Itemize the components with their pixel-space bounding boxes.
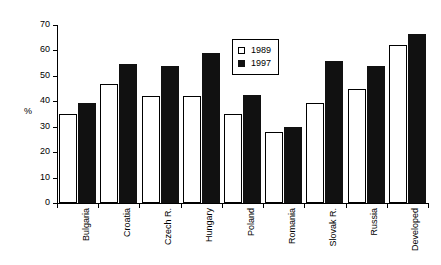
x-axis-label: Bulgaria [82, 208, 91, 241]
x-axis-label: Slovak R. [329, 208, 338, 247]
x-tick-mark [181, 204, 182, 208]
bar-1989 [389, 45, 407, 203]
y-tick-label: 50 [28, 71, 50, 80]
bar-group [387, 25, 428, 203]
y-tick-label: 40 [28, 96, 50, 105]
bar-group [139, 25, 180, 203]
x-tick-mark [98, 204, 99, 208]
bar-1989 [59, 114, 77, 203]
x-tick-mark [304, 204, 305, 208]
x-tick-mark [346, 204, 347, 208]
bar-1989 [224, 114, 242, 203]
x-tick-mark [57, 204, 58, 208]
x-axis-label: Russia [370, 208, 379, 236]
bar-1997 [202, 53, 220, 203]
legend: 1989 1997 [232, 39, 279, 75]
y-tick-label: 0 [28, 198, 50, 207]
bar-group [181, 25, 222, 203]
x-tick-mark [222, 204, 223, 208]
x-axis-label: Developed [411, 208, 420, 251]
bar-1997 [243, 95, 261, 203]
bar-1997 [325, 61, 343, 203]
legend-item-1989: 1989 [238, 44, 271, 57]
bar-1997 [78, 103, 96, 203]
bar-1989 [142, 96, 160, 203]
x-tick-mark [428, 204, 429, 208]
legend-label: 1997 [251, 59, 271, 68]
bar-1989 [183, 96, 201, 203]
bar-group [57, 25, 98, 203]
x-tick-mark [263, 204, 264, 208]
y-axis-title: % [12, 106, 32, 116]
bar-1997 [408, 34, 426, 203]
y-tick-label: 60 [28, 45, 50, 54]
bar-1989 [265, 132, 283, 203]
x-tick-mark [139, 204, 140, 208]
filled-square-icon [238, 60, 245, 67]
bar-1997 [119, 64, 137, 203]
x-axis-label: Czech R. [164, 208, 173, 245]
x-axis-label: Hungary [205, 208, 214, 242]
y-tick-label: 10 [28, 173, 50, 182]
legend-item-1997: 1997 [238, 57, 271, 70]
bar-1989 [306, 103, 324, 203]
x-axis-label: Croatia [123, 208, 132, 237]
x-axis-label: Poland [247, 208, 256, 236]
bar-1997 [161, 66, 179, 203]
x-axis-line [57, 203, 429, 204]
y-tick-label: 70 [28, 20, 50, 29]
open-square-icon [238, 47, 245, 54]
bar-group [304, 25, 345, 203]
bar-group [98, 25, 139, 203]
bar-1997 [284, 127, 302, 203]
y-tick-label: 20 [28, 147, 50, 156]
x-axis-label: Romania [288, 208, 297, 244]
x-tick-mark [387, 204, 388, 208]
bar-chart: % 010203040506070 BulgariaCroatiaCzech R… [0, 0, 441, 265]
y-tick-label: 30 [28, 122, 50, 131]
bar-1997 [367, 66, 385, 203]
bar-group [346, 25, 387, 203]
legend-label: 1989 [251, 46, 271, 55]
bar-1989 [348, 89, 366, 203]
bar-1989 [100, 84, 118, 204]
